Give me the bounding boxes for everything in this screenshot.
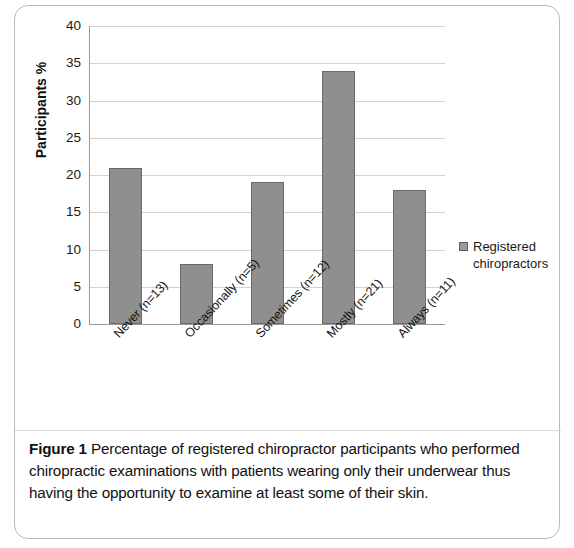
figure-card: Participants % 0510152025303540 Never (n… [14,5,560,539]
y-axis-tick-label: 10 [41,243,81,257]
legend-swatch-registered-chiropractors [459,242,468,251]
y-axis-tick-label: 30 [41,94,81,108]
y-axis-tick-label: 35 [41,56,81,70]
bar [109,168,142,324]
y-axis-tick-label: 5 [41,280,81,294]
y-axis-tick-label: 0 [41,317,81,331]
gridline [90,101,445,102]
caption-divider [15,430,561,431]
figure-caption-label: Figure 1 [29,440,87,457]
gridline [90,63,445,64]
gridline [90,26,445,27]
bar [322,71,355,324]
y-axis-tick-label: 40 [41,19,81,33]
y-axis-tick-label: 25 [41,131,81,145]
gridline [90,138,445,139]
legend-label-registered-chiropractors: Registered chiropractors [473,238,561,272]
y-axis-tick-label: 15 [41,205,81,219]
chart-region: Participants % 0510152025303540 Never (n… [15,6,561,426]
gridline [90,175,445,176]
figure-caption-text: Percentage of registered chiropractor pa… [29,440,520,501]
figure-caption: Figure 1 Percentage of registered chirop… [29,438,549,505]
y-axis-tick-label: 20 [41,168,81,182]
legend: Registered chiropractors [459,238,561,272]
plot-area [89,26,445,325]
